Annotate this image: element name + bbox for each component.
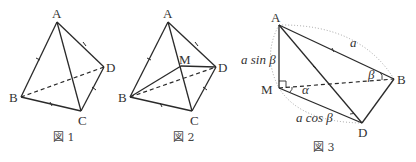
figure-2: A B C D M 図 2	[118, 6, 227, 144]
point-label-b: B	[118, 90, 127, 105]
point-label-a: A	[271, 10, 281, 25]
edge-ad	[57, 22, 104, 67]
point-label-d: D	[106, 60, 115, 75]
figure-1-caption: 図 1	[53, 131, 75, 144]
label-a-cos-beta: a cos β	[296, 110, 333, 125]
edge-cd	[81, 67, 104, 111]
tetrahedron-diagrams: A B C D 図 1 A B C D M 図 2	[0, 0, 416, 162]
point-label-a: A	[52, 6, 62, 21]
point-label-b: B	[9, 90, 18, 105]
figure-2-caption: 図 2	[173, 131, 195, 144]
edge-cd	[192, 67, 216, 111]
point-label-c: C	[190, 113, 199, 128]
segment-mb-hidden	[279, 79, 394, 88]
right-angle-marker	[279, 81, 286, 88]
tick-mark	[195, 42, 198, 46]
label-alpha: α	[302, 82, 310, 97]
point-label-m: M	[179, 52, 191, 67]
angle-arc-alpha	[290, 87, 292, 92]
edge-ac	[57, 22, 81, 111]
figure-3: A B D M a sin β a a cos β α β 図 3	[241, 10, 406, 154]
label-beta: β	[367, 67, 375, 82]
point-label-c: C	[78, 113, 87, 128]
point-label-a: A	[163, 6, 173, 21]
edge-ad	[168, 22, 216, 67]
figure-1: A B C D 図 1	[9, 6, 115, 144]
figure-3-caption: 図 3	[313, 141, 335, 154]
label-a-sin-beta: a sin β	[241, 52, 276, 67]
edge-bd	[362, 79, 394, 123]
tick-mark	[83, 42, 86, 46]
point-label-m: M	[261, 82, 273, 97]
point-label-d: D	[218, 60, 227, 75]
label-a: a	[350, 35, 357, 50]
edge-ab	[279, 25, 394, 79]
point-label-d: D	[358, 125, 367, 140]
point-label-b: B	[397, 72, 406, 87]
